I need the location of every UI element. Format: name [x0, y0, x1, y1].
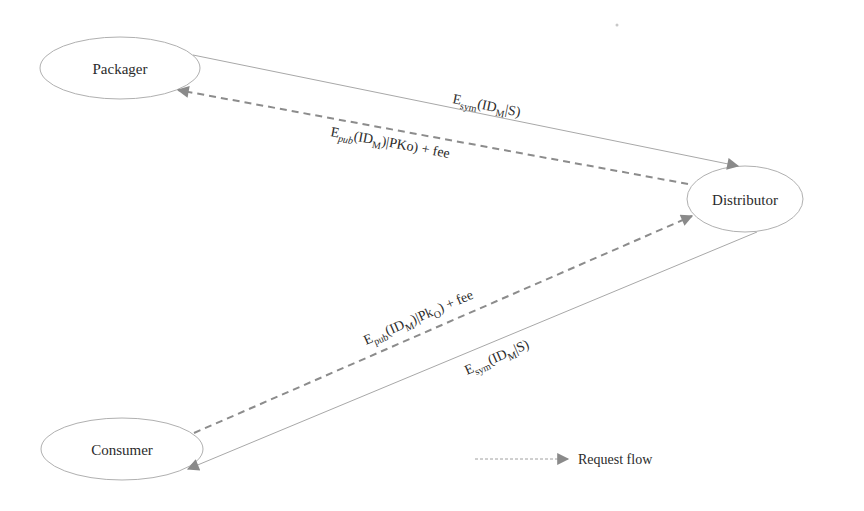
protocol-diagram: Packager Distributor Consumer Esym(IDM|S… — [0, 0, 864, 511]
legend: Request flow — [475, 452, 653, 467]
label-tail: )|Pk — [409, 304, 436, 328]
edge-consumer-to-distributor — [194, 216, 692, 433]
svg-text:Esym(IDM|S): Esym(IDM|S) — [451, 91, 522, 122]
node-label-consumer: Consumer — [91, 442, 153, 458]
svg-text:Esym(IDM|S): Esym(IDM|S) — [462, 336, 533, 380]
svg-text:Epub(IDM)|PkO) + fee: Epub(IDM)|PkO) + fee — [361, 287, 476, 351]
label-tail: |S) — [504, 102, 522, 121]
label-sub: sym — [459, 100, 478, 114]
edge-label-distributor-to-consumer: Esym(IDM|S) — [462, 336, 533, 380]
label-sub: pub — [336, 132, 354, 146]
node-distributor: Distributor — [687, 166, 803, 232]
edge-label-distributor-to-packager: Epub(IDM)|PKo) + fee — [329, 124, 451, 164]
svg-text:Epub(IDM)|PKo) + fee: Epub(IDM)|PKo) + fee — [329, 124, 451, 164]
edge-distributor-to-consumer — [188, 232, 757, 469]
node-packager: Packager — [40, 37, 200, 99]
node-label-distributor: Distributor — [712, 192, 778, 208]
edge-label-packager-to-distributor: Esym(IDM|S) — [451, 91, 522, 122]
label-tail: )|PKo) + fee — [380, 134, 451, 162]
node-consumer: Consumer — [41, 418, 203, 480]
edge-label-consumer-to-distributor: Epub(IDM)|PkO) + fee — [361, 287, 476, 351]
node-label-packager: Packager — [93, 61, 148, 77]
legend-label: Request flow — [578, 452, 653, 467]
speck-dot — [616, 24, 619, 27]
